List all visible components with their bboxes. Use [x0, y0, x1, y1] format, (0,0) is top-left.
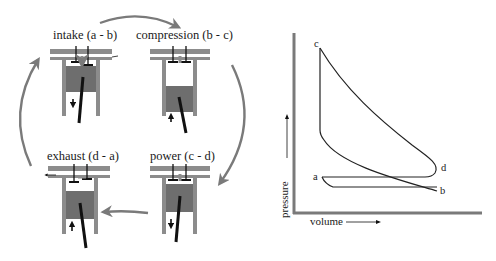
intake-engine: [50, 46, 118, 123]
power-engine: [150, 164, 210, 242]
cycle-arrows: [20, 16, 244, 213]
arrow-bottom-icon: [104, 211, 148, 213]
y-axis-label: pressure: [278, 181, 290, 218]
compression-engine: [150, 46, 210, 133]
arrow-left-icon: [20, 60, 38, 166]
engine-cycle-diagram: intake (a - b) compression (b - c) exhau…: [0, 0, 496, 261]
x-axis-label: volume: [310, 215, 343, 227]
point-d-label: d: [441, 162, 446, 173]
point-c-label: c: [314, 38, 319, 49]
arrow-top-icon: [100, 16, 178, 27]
pv-chart: [285, 33, 482, 224]
diagram-graphics: [0, 0, 496, 261]
exhaust-engine: [46, 164, 110, 248]
point-b-label: b: [440, 185, 445, 196]
arrow-right-icon: [220, 65, 245, 183]
point-a-label: a: [313, 171, 318, 182]
